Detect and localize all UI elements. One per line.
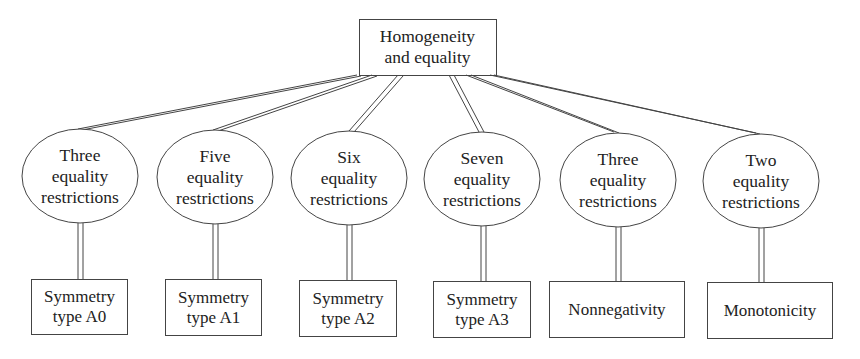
ellipse-2-label: Five equality restrictions bbox=[157, 130, 273, 224]
ellipse-4-label: Seven equality restrictions bbox=[424, 132, 540, 226]
connector-ellipse-5-to-leaf bbox=[616, 227, 621, 281]
ellipse-2-line-3: restrictions bbox=[176, 188, 254, 209]
leaf-2-line-1: Symmetry bbox=[178, 288, 249, 308]
leaf-2-line-2: type A1 bbox=[187, 308, 240, 328]
leaf-4-line-2: type A3 bbox=[455, 310, 508, 330]
ellipse-3-label: Six equality restrictions bbox=[291, 131, 407, 225]
ellipse-6-line-2: equality bbox=[733, 171, 789, 192]
connector-ellipse-6-to-leaf bbox=[759, 228, 764, 282]
leaf-6-line-1: Monotonicity bbox=[724, 301, 817, 321]
root-label-line-1: Homogeneity bbox=[380, 26, 475, 47]
ellipse-6-line-3: restrictions bbox=[722, 192, 800, 213]
ellipse-5-label: Three equality restrictions bbox=[560, 133, 676, 227]
leaf-3-line-1: Symmetry bbox=[313, 289, 384, 309]
ellipse-2-line-1: Five bbox=[199, 146, 230, 167]
leaf-4-label: Symmetry type A3 bbox=[433, 281, 531, 338]
connector-root-to-ellipse-1 bbox=[78, 75, 361, 130]
connector-ellipse-3-to-leaf bbox=[347, 225, 352, 280]
ellipse-6-label: Two equality restrictions bbox=[703, 134, 819, 228]
leaf-5-line-1: Nonnegativity bbox=[568, 300, 665, 320]
ellipse-4-line-3: restrictions bbox=[443, 190, 521, 211]
ellipse-5-line-2: equality bbox=[590, 170, 646, 191]
connector-root-to-ellipse-6 bbox=[490, 75, 760, 134]
ellipse-1-label: Three equality restrictions bbox=[22, 129, 138, 223]
ellipse-3-line-3: restrictions bbox=[310, 189, 388, 210]
ellipse-5-line-3: restrictions bbox=[579, 191, 657, 212]
ellipse-1-line-2: equality bbox=[52, 166, 108, 187]
connector-root-to-ellipse-5 bbox=[466, 75, 619, 133]
ellipse-3-line-1: Six bbox=[337, 147, 360, 168]
leaf-5-label: Nonnegativity bbox=[549, 281, 685, 338]
leaf-3-label: Symmetry type A2 bbox=[299, 280, 397, 337]
connector-ellipse-2-to-leaf bbox=[213, 224, 218, 279]
leaf-6-label: Monotonicity bbox=[707, 282, 833, 339]
ellipse-1-line-3: restrictions bbox=[41, 187, 119, 208]
ellipse-5-line-1: Three bbox=[598, 149, 639, 170]
ellipse-4-line-2: equality bbox=[454, 169, 510, 190]
connector-root-to-ellipse-4 bbox=[449, 75, 484, 132]
leaf-1-label: Symmetry type A0 bbox=[31, 279, 128, 335]
ellipse-3-line-2: equality bbox=[321, 168, 377, 189]
ellipse-2-line-2: equality bbox=[187, 167, 243, 188]
ellipse-6-line-1: Two bbox=[746, 150, 777, 171]
leaf-4-line-1: Symmetry bbox=[447, 290, 518, 310]
connector-root-to-ellipse-2 bbox=[213, 75, 377, 131]
leaf-1-line-1: Symmetry bbox=[44, 287, 115, 307]
connector-ellipse-1-to-leaf bbox=[78, 223, 83, 279]
ellipse-4-line-1: Seven bbox=[461, 148, 504, 169]
root-label-line-2: and equality bbox=[384, 47, 470, 68]
connector-root-to-ellipse-3 bbox=[349, 75, 403, 132]
leaf-2-label: Symmetry type A1 bbox=[165, 279, 262, 336]
root-node-label: Homogeneity and equality bbox=[359, 19, 496, 75]
leaf-1-line-2: type A0 bbox=[53, 307, 106, 327]
connector-ellipse-4-to-leaf bbox=[481, 226, 486, 281]
ellipse-1-line-1: Three bbox=[60, 145, 101, 166]
leaf-3-line-2: type A2 bbox=[321, 309, 374, 329]
